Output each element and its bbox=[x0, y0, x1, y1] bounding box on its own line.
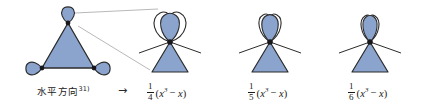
triangle-body bbox=[42, 23, 94, 68]
expression-5: (x3−x) bbox=[257, 86, 288, 99]
vertex-dot-4 bbox=[167, 39, 173, 45]
inner-loop-5 bbox=[262, 14, 278, 42]
expression-6: (x3−x) bbox=[357, 86, 388, 99]
theta-figure-6 bbox=[339, 15, 401, 72]
fraction-denominator-6: 6 bbox=[348, 92, 355, 103]
fraction-denominator-4: 4 bbox=[147, 92, 154, 103]
callout-line-top bbox=[75, 9, 158, 13]
expression-4: (x3−x) bbox=[156, 86, 187, 99]
minus-sign-5: − bbox=[271, 87, 277, 98]
fraction-numerator-6: 1 bbox=[348, 82, 355, 92]
formula-4: 1 4 (x3−x) bbox=[147, 82, 186, 102]
vertex-dot-6 bbox=[367, 39, 373, 45]
close-paren-4: ) bbox=[183, 87, 187, 98]
fraction-4: 1 4 bbox=[147, 82, 154, 102]
exponent-5: 3 bbox=[265, 86, 269, 94]
inner-loop-6 bbox=[363, 15, 377, 42]
horizontal-direction-text: 水平方向 bbox=[37, 86, 79, 97]
vertex-loop-top bbox=[62, 7, 75, 23]
footnote-marker: 31) bbox=[79, 85, 90, 93]
theta-figure-4 bbox=[139, 12, 201, 72]
arrow-icon: → bbox=[118, 84, 127, 97]
close-paren-6: ) bbox=[384, 87, 388, 98]
vertex-dot-bottom-right bbox=[92, 66, 97, 71]
fraction-6: 1 6 bbox=[348, 82, 355, 102]
exponent-6: 3 bbox=[365, 86, 369, 94]
theta-figure-5 bbox=[239, 14, 301, 72]
exponent-4: 3 bbox=[164, 86, 168, 94]
close-paren-5: ) bbox=[284, 87, 288, 98]
minus-sign-6: − bbox=[371, 87, 377, 98]
formula-5: 1 5 (x3−x) bbox=[248, 82, 287, 102]
triangle-graph bbox=[26, 7, 110, 75]
vertex-dot-bottom-left bbox=[40, 66, 45, 71]
inner-loop-4 bbox=[161, 13, 180, 42]
fraction-numerator-5: 1 bbox=[248, 82, 255, 92]
fraction-denominator-5: 5 bbox=[248, 92, 255, 103]
formula-6: 1 6 (x3−x) bbox=[348, 82, 387, 102]
fraction-5: 1 5 bbox=[248, 82, 255, 102]
vertex-loop-bottom-right bbox=[94, 62, 110, 75]
vertex-dot-5 bbox=[267, 39, 273, 45]
horizontal-direction-label: 水平方向31) bbox=[37, 84, 89, 98]
fraction-numerator-4: 1 bbox=[147, 82, 154, 92]
vertex-loop-bottom-left bbox=[26, 62, 42, 75]
vertex-dot-top bbox=[66, 21, 71, 26]
minus-sign-4: − bbox=[170, 87, 176, 98]
